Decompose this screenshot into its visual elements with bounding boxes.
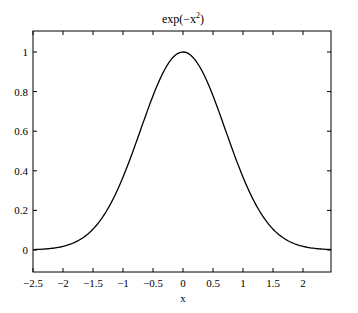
x-tick-label: −1 [117,277,129,289]
y-tick-label: 0.2 [14,204,28,216]
chart: exp(−x2) −2.5−2−1.5−1−0.500.511.52 00.20… [0,0,358,313]
x-tick-label: 0 [180,277,186,289]
x-tick-label: −2.5 [23,277,43,289]
data-line [33,52,331,250]
x-tick-labels: −2.5−2−1.5−1−0.500.511.52 [23,277,306,289]
chart-title: exp(−x2) [162,11,204,26]
x-axis-label: x [180,292,186,304]
x-tick-label: −0.5 [143,277,163,289]
x-tick-label: 1 [240,277,246,289]
x-tick-label: 1.5 [266,277,280,289]
x-tick-label: 2 [300,277,306,289]
x-tick-label: −2 [57,277,69,289]
y-tick-label: 0.6 [14,125,28,137]
y-tick-label: 0.8 [14,86,28,98]
x-tick-label: −1.5 [83,277,103,289]
y-tick-label: 0 [23,244,29,256]
y-tick-label: 1 [23,46,29,58]
plot-area-frame [33,31,331,272]
y-tick-label: 0.4 [14,165,28,177]
x-tick-label: 0.5 [206,277,220,289]
y-tick-labels: 00.20.40.60.81 [14,46,28,256]
axis-ticks [33,31,331,272]
